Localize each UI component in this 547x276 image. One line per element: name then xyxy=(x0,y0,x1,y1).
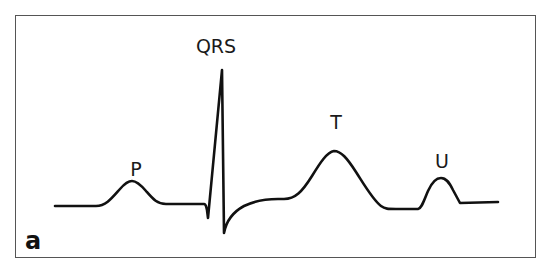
u-wave-label: U xyxy=(435,152,449,171)
qrs-complex-label: QRS xyxy=(196,37,236,56)
ecg-waveform-path xyxy=(55,70,498,233)
panel-label: a xyxy=(25,229,41,253)
t-wave-label: T xyxy=(330,113,342,132)
ecg-trace xyxy=(0,0,547,276)
p-wave-label: P xyxy=(130,160,141,179)
